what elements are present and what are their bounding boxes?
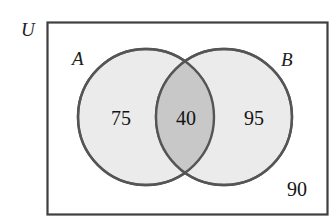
venn-diagram-figure: U A B 75 40 95 90 <box>0 0 336 221</box>
outside-count: 90 <box>287 178 307 200</box>
set-b-only-count: 95 <box>244 107 264 129</box>
venn-diagram-canvas: U A B 75 40 95 90 <box>0 0 336 221</box>
universal-set-label: U <box>21 19 36 40</box>
intersection-count: 40 <box>176 107 196 129</box>
set-a-label: A <box>70 48 84 69</box>
set-b-label: B <box>281 49 293 70</box>
set-a-only-count: 75 <box>111 107 131 129</box>
